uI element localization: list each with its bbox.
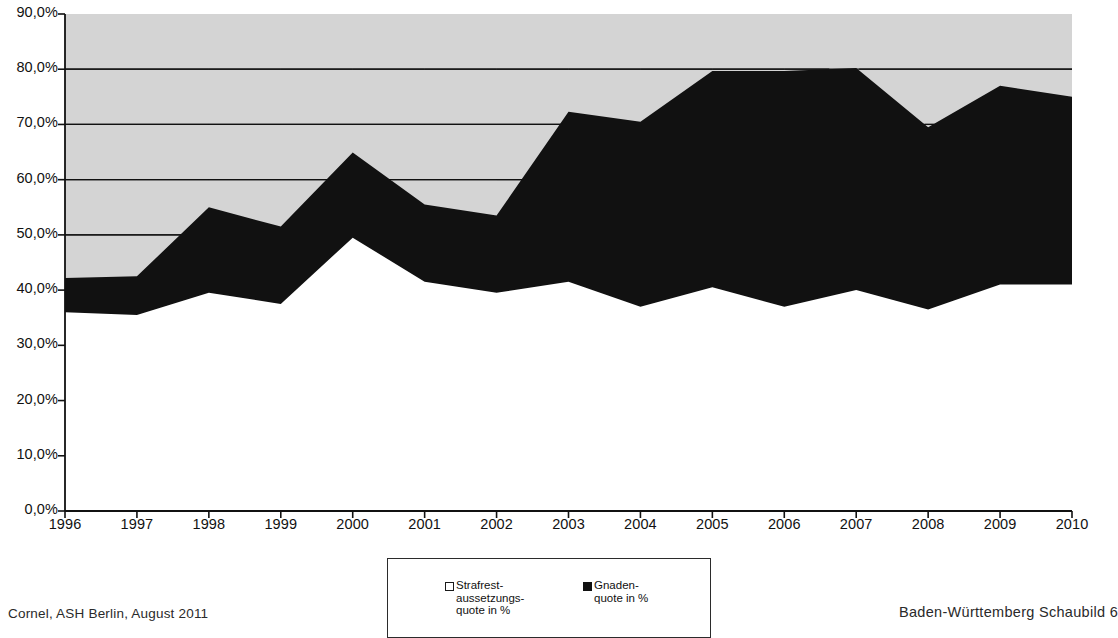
y-axis-tick-label: 80,0% — [2, 59, 58, 75]
chart-legend: Strafrest- aussetzungs- quote in % Gnade… — [387, 558, 711, 638]
x-axis-tick-label: 1998 — [179, 516, 239, 532]
footer-figure-label: Baden-Württemberg Schaubild 6 — [899, 604, 1118, 620]
x-axis-tick-label: 2004 — [610, 516, 670, 532]
legend-label-gnadenquote: Gnaden- quote in % — [594, 579, 648, 604]
legend-swatch-hollow-icon — [445, 582, 454, 591]
y-axis-tick-label: 70,0% — [2, 114, 58, 130]
y-axis-tick-label: 40,0% — [2, 280, 58, 296]
y-axis-tick-label: 20,0% — [2, 391, 58, 407]
x-axis-tick-label: 2002 — [467, 516, 527, 532]
y-axis-tick-label: 0,0% — [2, 501, 58, 517]
x-axis-tick-label: 1997 — [107, 516, 167, 532]
x-axis-tick-label: 2010 — [1042, 516, 1102, 532]
x-axis-tick-label: 1996 — [35, 516, 95, 532]
y-axis-tick-label: 60,0% — [2, 170, 58, 186]
x-axis-tick-label: 2006 — [754, 516, 814, 532]
legend-item-gnadenquote: Gnaden- quote in % — [583, 579, 648, 604]
y-axis-tick-label: 10,0% — [2, 446, 58, 462]
y-axis-ticks — [58, 14, 65, 511]
y-axis-tick-label: 90,0% — [2, 4, 58, 20]
x-axis-tick-label: 2007 — [826, 516, 886, 532]
x-axis-tick-label: 2003 — [539, 516, 599, 532]
x-axis-tick-label: 2005 — [682, 516, 742, 532]
x-axis-tick-label: 2008 — [898, 516, 958, 532]
legend-swatch-filled-icon — [583, 582, 592, 591]
legend-label-strafrestaussetzungsquote: Strafrest- aussetzungs- quote in % — [456, 579, 524, 617]
x-axis-tick-label: 1999 — [251, 516, 311, 532]
y-axis-tick-label: 30,0% — [2, 335, 58, 351]
legend-item-strafrestaussetzungsquote: Strafrest- aussetzungs- quote in % — [445, 579, 524, 617]
y-axis-tick-label: 50,0% — [2, 225, 58, 241]
x-axis-tick-label: 2000 — [323, 516, 383, 532]
x-axis-tick-label: 2009 — [970, 516, 1030, 532]
x-axis-tick-label: 2001 — [395, 516, 455, 532]
footer-source-note: Cornel, ASH Berlin, August 2011 — [8, 606, 208, 621]
